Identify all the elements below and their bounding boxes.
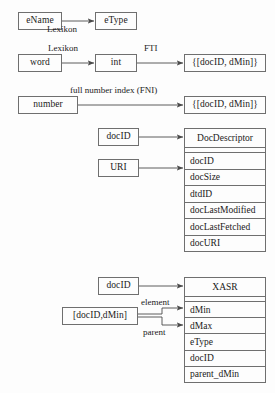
node-doclist-fti-label: {[docID, dMin]} (192, 58, 258, 68)
edge-label-fni: full number index (FNI) (70, 86, 157, 95)
table-docdescriptor-field-dtdid: dtdID (190, 189, 212, 199)
table-xasr-field-dmin: dMin (190, 305, 211, 315)
edge-parent-dmax (138, 317, 183, 325)
node-uri[interactable]: URI (98, 159, 139, 177)
edge-label-element: element (141, 298, 170, 307)
edge-label-element-text: element (141, 297, 170, 307)
diagram-canvas: eName eType Lexikon word int {[docID, dM… (0, 0, 275, 393)
node-etype-label: eType (104, 16, 128, 26)
edge-element-dmin (138, 308, 183, 314)
node-docid-dmin-pair[interactable]: [docID,dMin] (62, 307, 138, 325)
edge-label-fni-text: full number index (FNI) (70, 85, 157, 95)
table-row[interactable]: dMax (185, 318, 265, 334)
table-row[interactable]: docSize (185, 170, 265, 187)
table-row[interactable]: dtdID (185, 186, 265, 203)
table-row[interactable]: docID (185, 153, 265, 170)
table-row[interactable]: docLastModified (185, 203, 265, 220)
table-xasr-field-dmax: dMax (190, 321, 212, 331)
table-row[interactable]: docLastFetched (185, 219, 265, 236)
node-docid-docdescriptor-label: docID (106, 132, 130, 142)
edge-label-lexikon-etype-text: Lexikon (47, 24, 77, 34)
node-number[interactable]: number (18, 96, 78, 114)
node-word-label: word (30, 58, 50, 68)
edge-label-fti: FTI (144, 44, 158, 53)
table-xasr-field-parent-dmin: parent_dMin (190, 369, 239, 379)
table-row[interactable]: eType (185, 334, 265, 350)
node-word[interactable]: word (18, 54, 62, 72)
table-row[interactable]: docID (185, 351, 265, 367)
table-docdescriptor-field-docuri: docURI (190, 238, 220, 248)
node-etype[interactable]: eType (95, 12, 137, 30)
node-docid-xasr[interactable]: docID (98, 277, 139, 295)
table-row[interactable]: dMin (185, 302, 265, 318)
edge-label-lexikon-etype: Lexikon (47, 25, 77, 34)
table-xasr[interactable]: XASR dMin dMax eType docID parent_dMin (184, 277, 266, 383)
node-doclist-fni[interactable]: {[docID, dMin]} (184, 96, 266, 114)
table-row[interactable]: docURI (185, 236, 265, 252)
table-docdescriptor-field-docid: docID (190, 156, 214, 166)
node-docid-xasr-label: docID (106, 281, 130, 291)
node-int-label: int (111, 58, 121, 68)
table-xasr-field-etype: eType (190, 337, 213, 347)
node-docid-docdescriptor[interactable]: docID (98, 128, 139, 146)
table-docdescriptor-field-doclastmodified: docLastModified (190, 205, 255, 215)
table-docdescriptor-field-doclastfetched: docLastFetched (190, 222, 250, 232)
table-row[interactable]: parent_dMin (185, 367, 265, 382)
table-docdescriptor[interactable]: DocDescriptor docID docSize dtdID docLas… (184, 128, 266, 252)
table-docdescriptor-header: DocDescriptor (185, 129, 265, 148)
edge-label-lexikon-int: Lexikon (48, 44, 78, 53)
node-number-label: number (33, 100, 63, 110)
edge-label-parent-text: parent (143, 327, 166, 337)
edge-label-lexikon-int-text: Lexikon (48, 43, 78, 53)
table-xasr-header-text: XASR (212, 282, 237, 292)
node-docid-dmin-pair-label: [docID,dMin] (73, 311, 127, 321)
table-docdescriptor-field-docsize: docSize (190, 172, 220, 182)
table-docdescriptor-header-text: DocDescriptor (197, 133, 253, 143)
edge-label-parent: parent (143, 328, 166, 337)
node-doclist-fni-label: {[docID, dMin]} (192, 100, 258, 110)
node-uri-label: URI (110, 163, 127, 173)
node-int[interactable]: int (95, 54, 137, 72)
node-doclist-fti[interactable]: {[docID, dMin]} (184, 54, 266, 72)
table-xasr-field-docid: docID (190, 353, 214, 363)
edge-label-fti-text: FTI (144, 43, 158, 53)
table-xasr-header: XASR (185, 278, 265, 297)
